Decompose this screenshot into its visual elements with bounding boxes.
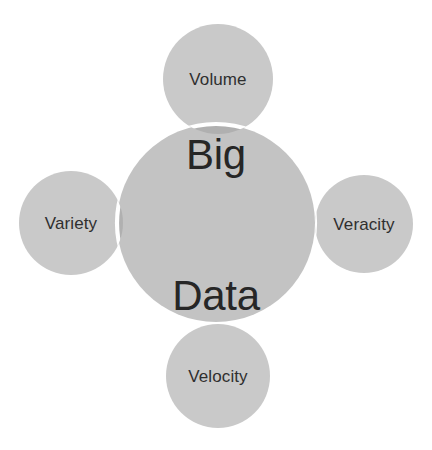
circle-volume[interactable]	[163, 24, 273, 134]
circle-veracity[interactable]	[315, 175, 413, 273]
diagram-canvas	[0, 0, 432, 450]
circle-big-data[interactable]	[117, 124, 315, 322]
big-data-diagram: Big Data Volume Variety Veracity Velocit…	[0, 0, 432, 450]
circle-velocity[interactable]	[166, 324, 270, 428]
circle-variety[interactable]	[19, 171, 123, 275]
